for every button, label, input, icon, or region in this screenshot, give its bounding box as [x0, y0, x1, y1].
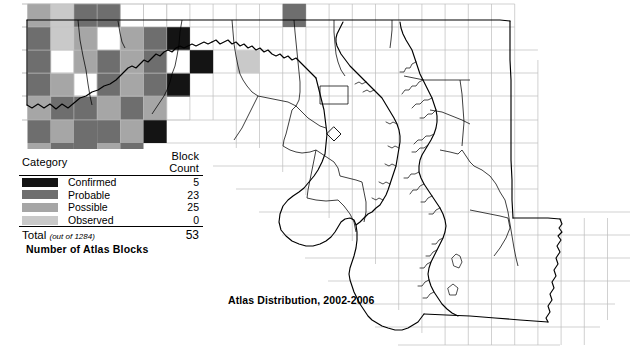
map-legend: Category Block Count Confirmed5Probable2…	[19, 149, 203, 243]
legend-row: Observed0	[19, 214, 203, 227]
legend-total-label: Total (out of 1284)	[19, 227, 162, 244]
legend-label: Confirmed	[62, 176, 162, 189]
legend-total-count: 53	[162, 227, 203, 244]
legend-header-block-count: Block Count	[162, 149, 203, 176]
atlas-block-probable	[97, 120, 120, 143]
atlas-block-probable	[28, 50, 51, 73]
legend-count: 5	[162, 176, 203, 189]
atlas-block-probable	[144, 73, 167, 96]
atlas-block-observed	[51, 27, 74, 50]
atlas-distribution-map: Category Block Count Confirmed5Probable2…	[0, 0, 631, 351]
blocks-caption: Number of Atlas Blocks	[26, 243, 148, 255]
legend-label: Observed	[62, 214, 162, 227]
legend-header-row: Category Block Count	[19, 149, 203, 176]
atlas-block-probable	[120, 97, 143, 120]
legend-color-swatch	[22, 190, 58, 199]
legend-swatch-cell	[19, 201, 62, 214]
map-title: Atlas Distribution, 2002-2006	[228, 294, 374, 306]
atlas-block-probable	[74, 120, 97, 143]
legend-table: Category Block Count Confirmed5Probable2…	[19, 149, 203, 243]
legend-swatch-cell	[19, 189, 62, 202]
legend-color-swatch	[22, 203, 58, 212]
legend-header-category: Category	[19, 149, 162, 176]
atlas-block-possible	[51, 120, 74, 143]
legend-color-swatch	[22, 178, 58, 187]
legend-color-swatch	[22, 216, 58, 225]
atlas-block-observed	[51, 4, 74, 27]
atlas-block-observed	[236, 50, 259, 73]
atlas-block-possible	[97, 97, 120, 120]
legend-total-row: Total (out of 1284) 53	[19, 227, 203, 244]
legend-count: 0	[162, 214, 203, 227]
atlas-block-probable	[28, 120, 51, 143]
atlas-block-possible	[28, 4, 51, 27]
atlas-block-confirmed	[167, 73, 190, 96]
legend-row: Confirmed5	[19, 176, 203, 189]
atlas-block-possible	[120, 120, 143, 143]
legend-swatch-cell	[19, 176, 62, 189]
atlas-block-possible	[120, 27, 143, 50]
legend-swatch-cell	[19, 214, 62, 227]
atlas-block-probable	[74, 4, 97, 27]
atlas-block-possible	[28, 97, 51, 120]
atlas-block-probable	[28, 27, 51, 50]
atlas-block-possible	[74, 27, 97, 50]
legend-label: Possible	[62, 201, 162, 214]
atlas-block-confirmed	[190, 50, 213, 73]
legend-row: Probable23	[19, 189, 203, 202]
atlas-block-possible	[51, 73, 74, 96]
total-word: Total	[22, 229, 46, 241]
atlas-block-confirmed	[144, 120, 167, 143]
legend-count: 25	[162, 201, 203, 214]
atlas-block-probable	[97, 4, 120, 27]
atlas-block-probable	[28, 73, 51, 96]
atlas-block-possible	[120, 50, 143, 73]
legend-row: Possible25	[19, 201, 203, 214]
atlas-block-probable	[144, 27, 167, 50]
atlas-block-possible	[74, 50, 97, 73]
total-note: (out of 1284)	[50, 232, 95, 241]
atlas-block-possible	[120, 73, 143, 96]
atlas-block-possible	[144, 97, 167, 120]
legend-label: Probable	[62, 189, 162, 202]
legend-count: 23	[162, 189, 203, 202]
legend-rows: Confirmed5Probable23Possible25Observed0	[19, 176, 203, 227]
atlas-block-probable	[97, 50, 120, 73]
